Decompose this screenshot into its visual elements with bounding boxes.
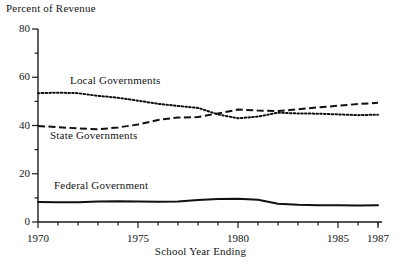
series-line	[38, 199, 378, 206]
x-axis-tick-label: 1970	[16, 233, 60, 244]
x-axis-tick-label: 1987	[356, 233, 400, 244]
x-axis-title: School Year Ending	[0, 245, 401, 257]
y-axis-tick-label: 60	[4, 71, 30, 82]
y-axis-tick-label: 40	[4, 120, 30, 131]
x-axis-tick-label: 1975	[116, 233, 160, 244]
y-axis-tick-label: 0	[4, 216, 30, 227]
series-line	[38, 103, 378, 130]
series-label: Federal Government	[54, 180, 148, 191]
x-axis-tick-label: 1985	[316, 233, 360, 244]
y-axis-tick-label: 80	[4, 23, 30, 34]
chart-container: Percent of Revenue 020406080 19701975198…	[0, 0, 401, 264]
series-label: State Governments	[50, 130, 137, 141]
y-axis-tick-label: 20	[4, 168, 30, 179]
series-label: Local Governments	[70, 75, 160, 86]
x-axis-tick-label: 1980	[216, 233, 260, 244]
